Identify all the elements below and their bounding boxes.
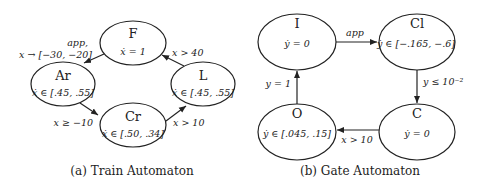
- edge-C-O-label: x > 10: [341, 134, 372, 145]
- state-F: F ẋ = 1: [100, 21, 166, 65]
- state-Ar-name: Ar: [54, 68, 71, 83]
- state-I-name: I: [294, 16, 299, 31]
- state-O-name: O: [292, 106, 303, 121]
- caption-gate: (b) Gate Automaton: [300, 164, 420, 178]
- state-Cr-flow: ẋ ∈ [.50, .34]: [102, 128, 164, 139]
- state-Ar: Ar ẋ ∈ [.45, .55]: [31, 62, 95, 106]
- edge-Cr-L-label: x > 10: [173, 117, 204, 128]
- edge-F-Ar-label-1: app,: [67, 37, 88, 48]
- edge-Ar-Cr: [80, 103, 98, 115]
- state-F-flow: ẋ = 1: [120, 46, 145, 57]
- state-F-name: F: [128, 26, 137, 41]
- state-Ar-flow: ẋ ∈ [.45, .55]: [32, 87, 94, 98]
- gate-automaton: I ẏ = 0 Cl ẏ ∈ [−.165, −.6] C ẏ = 0 O ẏ …: [258, 14, 463, 178]
- state-Cl-name: Cl: [410, 16, 424, 31]
- train-automaton: F ẋ = 1 Ar ẋ ∈ [.45, .55] L ẋ ∈ [.45, .5…: [19, 21, 235, 178]
- state-L: L ẋ ∈ [.45, .55]: [171, 62, 235, 106]
- state-C: C ẏ = 0: [379, 104, 455, 160]
- state-O-flow: ẏ ∈ [.045, .15]: [262, 128, 331, 139]
- edge-Cl-C-label: y ≤ 10⁻²: [422, 76, 463, 87]
- caption-train: (a) Train Automaton: [70, 164, 194, 178]
- state-O: O ẏ ∈ [.045, .15]: [258, 104, 336, 160]
- edge-F-Ar-label-2: x → [−30, −20]: [19, 49, 92, 60]
- state-C-name: C: [412, 106, 422, 121]
- edge-Ar-Cr-label: x ≥ −10: [54, 117, 93, 128]
- state-Cl: Cl ẏ ∈ [−.165, −.6]: [376, 14, 455, 70]
- state-Cl-flow: ẏ ∈ [−.165, −.6]: [376, 38, 455, 49]
- state-C-flow: ẏ = 0: [403, 128, 429, 139]
- edge-L-F-label: x > 40: [172, 47, 203, 58]
- state-L-name: L: [199, 68, 208, 83]
- edge-I-Cl-label: app: [346, 27, 364, 38]
- state-Cr: Cr ẋ ∈ [.50, .34]: [100, 103, 166, 147]
- state-Cr-name: Cr: [125, 109, 142, 124]
- state-I-flow: ẏ = 0: [283, 38, 309, 49]
- state-L-flow: ẋ ∈ [.45, .55]: [172, 87, 234, 98]
- edge-O-I-label: y = 1: [265, 78, 291, 89]
- state-I: I ẏ = 0: [258, 14, 336, 70]
